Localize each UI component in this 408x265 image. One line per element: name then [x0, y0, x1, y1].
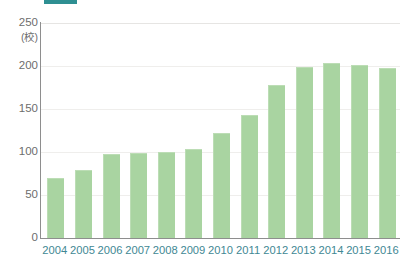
- y-tick-label: 150: [4, 103, 38, 114]
- x-tick-label: 2010: [207, 243, 235, 257]
- bar: [103, 154, 120, 238]
- bar: [379, 68, 396, 238]
- x-tick-label: 2004: [41, 243, 69, 257]
- x-tick-label: 2012: [262, 243, 290, 257]
- x-tick-label: 2015: [345, 243, 373, 257]
- x-tick-label: 2011: [234, 243, 262, 257]
- bar: [158, 152, 175, 238]
- y-axis-labels: 050100150200250(校): [0, 0, 38, 265]
- gridline: [41, 23, 400, 24]
- bar: [75, 170, 92, 238]
- bar: [241, 115, 258, 238]
- bar-chart: 050100150200250(校) 200420052006200720082…: [0, 0, 408, 265]
- y-tick-label: 200: [4, 60, 38, 71]
- bar: [130, 153, 147, 238]
- x-tick-label: 2013: [290, 243, 318, 257]
- bar: [268, 85, 285, 238]
- gridline: [41, 109, 400, 110]
- y-tick-label: 100: [4, 146, 38, 157]
- y-tick-label: 0: [4, 232, 38, 243]
- gridline: [41, 66, 400, 67]
- y-tick-label: 250: [4, 17, 38, 28]
- bar: [47, 178, 64, 238]
- x-tick-label: 2005: [69, 243, 97, 257]
- x-tick-label: 2009: [179, 243, 207, 257]
- y-axis-unit-label: (校): [4, 32, 38, 43]
- bar: [213, 133, 230, 238]
- bar: [185, 149, 202, 238]
- plot-area: [41, 23, 400, 238]
- bar: [323, 63, 340, 238]
- header-accent-bar: [44, 0, 77, 4]
- x-tick-label: 2014: [317, 243, 345, 257]
- bar: [351, 65, 368, 238]
- x-tick-label: 2007: [124, 243, 152, 257]
- y-tick-label: 50: [4, 189, 38, 200]
- x-tick-label: 2008: [151, 243, 179, 257]
- x-tick-label: 2016: [372, 243, 400, 257]
- bar: [296, 67, 313, 238]
- x-tick-label: 2006: [96, 243, 124, 257]
- x-axis-labels: 2004200520062007200820092010201120122013…: [41, 243, 400, 261]
- x-axis-line: [41, 238, 400, 239]
